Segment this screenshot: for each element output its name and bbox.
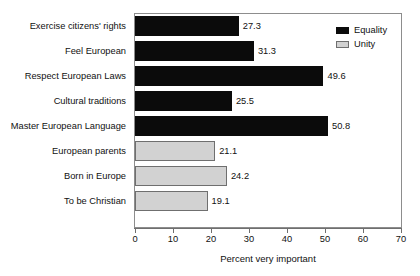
x-axis-tick — [135, 228, 136, 233]
category-label: Master European Language — [0, 121, 126, 131]
x-axis-tick-label: 40 — [272, 234, 302, 244]
category-label: Born in Europe — [0, 171, 126, 181]
x-axis-tick-label: 0 — [120, 234, 150, 244]
bar-equality — [135, 41, 254, 61]
bar-value-label: 49.6 — [327, 71, 345, 81]
bar-value-label: 25.5 — [236, 96, 254, 106]
legend-label: Equality — [354, 25, 387, 35]
bar-unity — [135, 166, 227, 186]
bar-unity — [135, 191, 208, 211]
x-axis-tick — [287, 228, 288, 233]
x-axis-tick — [325, 228, 326, 233]
x-axis-tick — [401, 228, 402, 233]
bar-value-label: 19.1 — [212, 196, 230, 206]
category-label: Feel European — [0, 46, 126, 56]
x-axis-tick-label: 70 — [386, 234, 416, 244]
legend-item-unity[interactable]: Unity — [336, 38, 400, 50]
category-label: Respect European Laws — [0, 71, 126, 81]
x-axis-tick — [211, 228, 212, 233]
legend-item-equality[interactable]: Equality — [336, 24, 400, 36]
bar-value-label: 50.8 — [332, 121, 350, 131]
category-axis-labels: Exercise citizens' rightsFeel EuropeanRe… — [0, 13, 130, 228]
x-axis-tick-label: 30 — [234, 234, 264, 244]
x-axis-tick — [249, 228, 250, 233]
bar-equality — [135, 91, 232, 111]
x-axis-tick — [363, 228, 364, 233]
bar-chart-figure: Exercise citizens' rightsFeel EuropeanRe… — [0, 0, 420, 276]
legend-swatch-icon — [336, 27, 349, 34]
legend-label: Unity — [354, 39, 375, 49]
x-axis-title: Percent very important — [134, 253, 402, 264]
bar-value-label: 24.2 — [231, 171, 249, 181]
category-label: Cultural traditions — [0, 96, 126, 106]
x-axis-tick-label: 20 — [196, 234, 226, 244]
bar-value-label: 27.3 — [243, 21, 261, 31]
bar-value-label: 21.1 — [219, 146, 237, 156]
bar-unity — [135, 141, 215, 161]
bar-value-label: 31.3 — [258, 46, 276, 56]
legend-swatch-icon — [336, 41, 349, 48]
x-axis-tick-label: 50 — [310, 234, 340, 244]
bar-equality — [135, 66, 323, 86]
x-axis-tick-label: 60 — [348, 234, 378, 244]
x-axis-tick-label: 10 — [158, 234, 188, 244]
x-axis-tick — [173, 228, 174, 233]
category-label: Exercise citizens' rights — [0, 21, 126, 31]
chart-legend: EqualityUnity — [336, 24, 400, 52]
bar-equality — [135, 116, 328, 136]
bar-equality — [135, 16, 239, 36]
x-axis-line — [134, 228, 402, 229]
category-label: European parents — [0, 146, 126, 156]
category-label: To be Christian — [0, 196, 126, 206]
